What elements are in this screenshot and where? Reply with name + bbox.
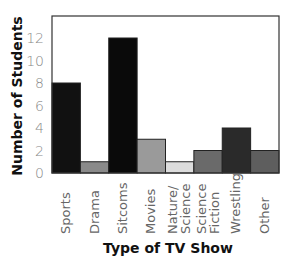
y-tick-label: 0 <box>35 165 44 181</box>
bar-sitcoms <box>109 38 137 173</box>
bar-science-fiction <box>194 151 222 174</box>
bar-nature-science <box>166 162 194 173</box>
x-category-text: Fiction <box>207 192 222 234</box>
bar-movies <box>137 139 165 173</box>
x-category-text: Sitcoms <box>115 182 130 234</box>
x-category-label: Sports <box>58 192 73 234</box>
y-axis-title: Number of Students <box>9 16 25 175</box>
bar-other <box>251 151 279 174</box>
y-tick-label: 4 <box>35 120 44 136</box>
x-category-text: Other <box>257 196 272 234</box>
x-category-label: Movies <box>143 189 158 234</box>
bar-wrestling <box>222 128 250 173</box>
x-category-label: Drama <box>87 190 102 234</box>
y-tick-label: 12 <box>26 30 44 46</box>
bars-group <box>52 38 279 173</box>
bar-drama <box>80 162 108 173</box>
x-category-text: Science <box>178 184 193 234</box>
x-category-label: Nature/Science <box>165 184 193 234</box>
x-category-text: Drama <box>87 190 102 234</box>
y-tick-label: 10 <box>26 53 44 69</box>
x-categories-group: SportsDramaSitcomsMoviesNature/ScienceSc… <box>58 173 272 234</box>
x-category-label: Other <box>257 196 272 234</box>
x-category-label: Sitcoms <box>115 182 130 234</box>
x-category-text: Sports <box>58 192 73 234</box>
y-tick-label: 6 <box>35 98 44 114</box>
x-category-label: ScienceFiction <box>194 184 222 234</box>
x-category-text: Movies <box>143 189 158 234</box>
y-ticks-group: 024681012 <box>26 30 44 181</box>
x-category-text: Wrestling <box>228 173 243 234</box>
y-tick-label: 2 <box>35 143 44 159</box>
bar-sports <box>52 83 80 173</box>
x-category-label: Wrestling <box>228 173 243 234</box>
bar-chart: 024681012 SportsDramaSitcomsMoviesNature… <box>0 0 289 267</box>
y-tick-label: 8 <box>35 75 44 91</box>
x-axis-title: Type of TV Show <box>103 240 233 256</box>
